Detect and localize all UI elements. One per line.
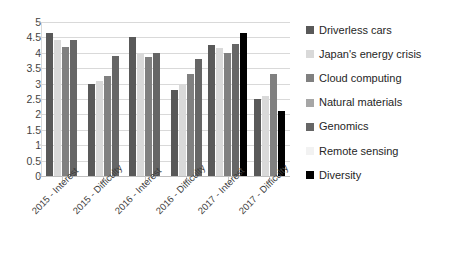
bar [240, 33, 247, 176]
bar [232, 44, 239, 176]
bar [96, 81, 103, 176]
bar [262, 96, 269, 176]
bar-group [249, 22, 291, 176]
legend-swatch-icon [306, 50, 314, 58]
bar [46, 33, 53, 176]
bar [137, 54, 144, 176]
bar [70, 40, 77, 176]
y-axis-tick-label: 4.5 [7, 32, 41, 43]
bar [129, 37, 136, 176]
bar [179, 84, 186, 176]
bar [224, 53, 231, 176]
bar [195, 59, 202, 176]
bar [54, 40, 61, 176]
legend-item-label: Diversity [319, 170, 361, 181]
y-axis: 00.511.522.533.544.55 [0, 22, 41, 177]
bar-group [41, 22, 83, 176]
legend-swatch-icon [306, 171, 314, 179]
legend-swatch-icon [306, 123, 314, 131]
x-axis-labels: 2015 - Interest2015 - Difficulty2016 - I… [41, 177, 290, 258]
y-axis-tick-label: 1 [7, 140, 41, 151]
bar [208, 45, 215, 176]
y-axis-tick-label: 2 [7, 109, 41, 120]
bar-group [166, 22, 208, 176]
bar [254, 99, 261, 176]
legend-item[interactable]: Cloud computing [306, 66, 448, 90]
y-axis-tick-label: 3 [7, 78, 41, 89]
bar [153, 53, 160, 176]
y-axis-tick-label: 5 [7, 17, 41, 28]
legend-item-label: Driverless cars [319, 25, 392, 36]
bar-group [124, 22, 166, 176]
bar-chart: 00.511.522.533.544.55 2015 - Interest201… [0, 0, 451, 258]
bar [88, 84, 95, 176]
bar [270, 74, 277, 176]
chart-legend: Driverless carsJapan's energy crisisClou… [306, 18, 448, 187]
bar [62, 47, 69, 176]
legend-swatch-icon [306, 99, 314, 107]
y-axis-tick-label: 2.5 [7, 94, 41, 105]
legend-item[interactable]: Japan's energy crisis [306, 42, 448, 66]
bar [145, 57, 152, 176]
legend-swatch-icon [306, 147, 314, 155]
bar [187, 74, 194, 176]
legend-item[interactable]: Diversity [306, 163, 448, 187]
bar [171, 90, 178, 176]
plot-area [41, 22, 290, 176]
y-axis-tick-label: 1.5 [7, 125, 41, 136]
y-axis-tick-label: 0.5 [7, 155, 41, 166]
bar [216, 48, 223, 176]
bar-group [207, 22, 249, 176]
bar-group [83, 22, 125, 176]
legend-swatch-icon [306, 26, 314, 34]
legend-item-label: Genomics [319, 121, 369, 132]
bar [112, 56, 119, 176]
legend-item[interactable]: Genomics [306, 115, 448, 139]
legend-item[interactable]: Remote sensing [306, 139, 448, 163]
legend-item-label: Cloud computing [319, 73, 402, 84]
y-axis-tick-label: 3.5 [7, 63, 41, 74]
legend-item-label: Remote sensing [319, 146, 399, 157]
y-axis-tick-label: 4 [7, 48, 41, 59]
bar [104, 76, 111, 176]
legend-swatch-icon [306, 74, 314, 82]
legend-item-label: Japan's energy crisis [319, 49, 421, 60]
legend-item-label: Natural materials [319, 97, 402, 108]
legend-item[interactable]: Natural materials [306, 91, 448, 115]
legend-item[interactable]: Driverless cars [306, 18, 448, 42]
y-axis-tick-label: 0 [7, 171, 41, 182]
